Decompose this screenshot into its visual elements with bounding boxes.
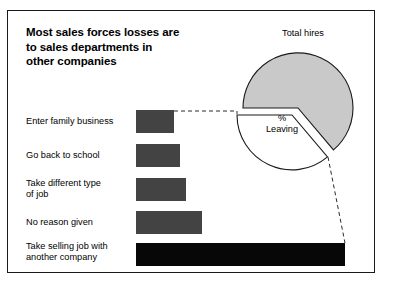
bar-label-line-2: of job (26, 189, 48, 199)
bar-label-line-1: Take different type (26, 178, 101, 188)
bar-rect-go-back-to-school (136, 144, 180, 167)
bar-chart: Enter family business Go back to school … (0, 0, 395, 289)
bar-label-line-2: another company (26, 252, 97, 262)
bar-label-take-selling-job: Take selling job with another company (26, 241, 134, 264)
bar-label-line-1: Go back to school (26, 150, 100, 160)
bar-label-line-1: Enter family business (26, 116, 113, 126)
bar-rect-take-different-type-of-job (136, 178, 186, 201)
bar-label-line-1: No reason given (26, 217, 93, 227)
chart-figure: Most sales forces losses are to sales de… (0, 0, 395, 289)
bar-label-take-different-type-of-job: Take different type of job (26, 178, 134, 201)
bar-label-line-1: Take selling job with (26, 241, 108, 251)
bar-rect-take-selling-job (136, 243, 345, 266)
bar-label-enter-family-business: Enter family business (26, 116, 134, 127)
bar-rect-no-reason-given (136, 211, 202, 234)
bar-label-no-reason-given: No reason given (26, 217, 134, 228)
bar-label-go-back-to-school: Go back to school (26, 150, 134, 161)
bar-rect-enter-family-business (136, 110, 174, 133)
